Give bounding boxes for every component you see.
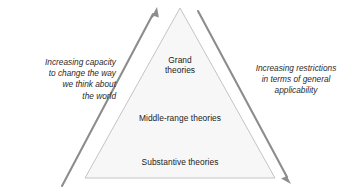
pyramid-layer-label-substantive: Substantive theories xyxy=(110,157,250,167)
pyramid-layer-label-middle-range: Middle-range theories xyxy=(105,113,255,123)
left-arrow-caption: Increasing capacity to change the way we… xyxy=(8,57,116,102)
pyramid-layer-label-grand: Grand theories xyxy=(140,55,220,76)
diagram-canvas: Grand theories Middle-range theories Sub… xyxy=(0,0,360,192)
right-arrow-caption: Increasing restrictions in terms of gene… xyxy=(238,63,354,97)
